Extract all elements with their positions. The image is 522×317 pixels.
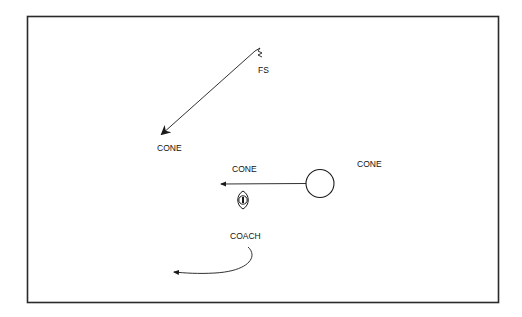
free-safety-label: FS [258,65,269,75]
coach-label: COACH [230,231,261,241]
coach-route-arrow [174,247,252,273]
fs-route-arrow [162,51,255,134]
cone-right-label: CONE [357,159,382,169]
free-safety-icon [255,48,262,57]
receiver-route-arrow [221,184,306,185]
receiver-circle-icon [306,170,334,198]
play-diagram: FS CONE CONE CONE COACH [0,0,522,317]
cone-middle-label: CONE [232,164,257,174]
diagram-frame [28,17,499,303]
football-icon [238,191,249,209]
cone-left-label: CONE [157,143,182,153]
